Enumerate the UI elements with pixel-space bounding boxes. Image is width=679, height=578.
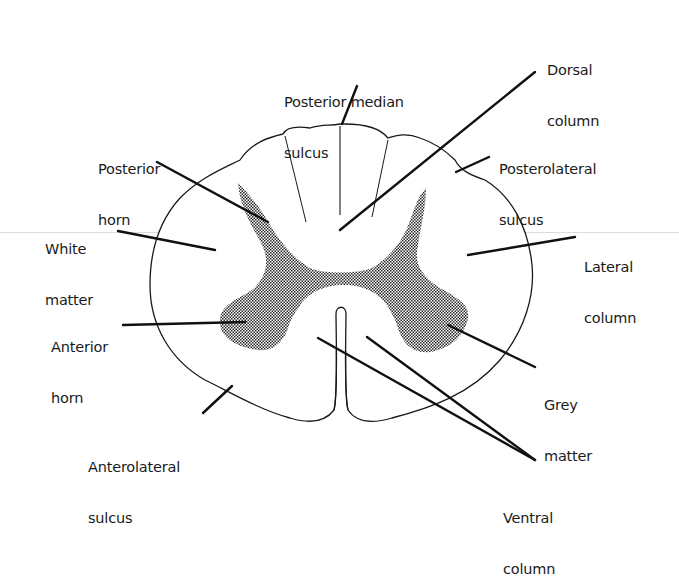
- label-anterolateral-sulcus: Anterolateral sulcus: [88, 425, 180, 544]
- label-line: Ventral: [503, 510, 555, 527]
- label-anterior-horn: Anterior horn: [51, 305, 108, 424]
- label-posterior-horn: Posterior horn: [98, 127, 160, 246]
- leader-posterolateral-sulcus: [456, 157, 489, 172]
- label-grey-matter: Grey matter: [544, 363, 592, 482]
- label-line: Grey: [544, 397, 592, 414]
- label-line: Anterolateral: [88, 459, 180, 476]
- label-line: sulcus: [499, 212, 596, 229]
- label-lateral-column: Lateral column: [584, 225, 636, 344]
- label-line: sulcus: [284, 145, 404, 162]
- label-line: Lateral: [584, 259, 636, 276]
- label-line: Posterior: [98, 161, 160, 178]
- label-line: Posterolateral: [499, 161, 596, 178]
- label-line: matter: [544, 448, 592, 465]
- label-line: column: [584, 310, 636, 327]
- label-ventral-column: Ventral column: [503, 476, 555, 578]
- leader-anterolateral-sulcus: [203, 386, 232, 413]
- label-line: Posterior median: [284, 94, 404, 111]
- label-posterior-median-sulcus: Posterior median sulcus: [284, 60, 404, 179]
- label-line: White: [45, 241, 93, 258]
- label-posterolateral-sulcus: Posterolateral sulcus: [499, 127, 596, 246]
- label-line: Anterior: [51, 339, 108, 356]
- label-line: column: [503, 561, 555, 578]
- label-line: horn: [98, 212, 160, 229]
- label-line: Dorsal: [547, 62, 599, 79]
- label-line: sulcus: [88, 510, 180, 527]
- label-line: horn: [51, 390, 108, 407]
